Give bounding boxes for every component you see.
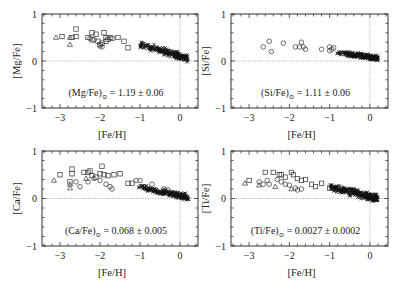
panel-si-fe: −3−2−10−101[Fe/H][Si/Fe](Si/Fe)⊙ = 1.11 … [200, 9, 388, 141]
y-tick-label: 0 [32, 193, 37, 204]
series-crosses [139, 41, 190, 64]
y-tick-label: 0 [32, 56, 37, 67]
x-axis-label: [Fe/H] [98, 267, 126, 278]
series-crosses [336, 50, 380, 62]
x-tick-label: 0 [367, 112, 372, 123]
y-axis-label: [Ti/Fe] [200, 184, 211, 213]
x-axis-label: [Fe/H] [288, 267, 316, 278]
x-axis-label: [Fe/H] [98, 129, 126, 140]
x-tick-label: −3 [55, 112, 66, 123]
series-circles [261, 39, 336, 54]
x-tick-label: 0 [178, 250, 183, 261]
x-tick-label: −2 [284, 112, 295, 123]
solar-ratio-annotation: (Ti/Fe)⊙ = 0.0027 ± 0.0002 [251, 225, 361, 238]
solar-ratio-annotation: (Si/Fe)⊙ = 1.11 ± 0.06 [261, 87, 350, 100]
x-tick-label: −1 [135, 250, 146, 261]
panel-ti-fe: −3−2−10−101[Fe/H][Ti/Fe](Ti/Fe)⊙ = 0.002… [200, 146, 388, 279]
y-tick-label: 0 [221, 193, 226, 204]
x-tick-label: −1 [135, 112, 146, 123]
y-tick-label: 1 [32, 146, 37, 157]
solar-ratio-annotation: (Mg/Fe)⊙ = 1.19 ± 0.06 [69, 87, 164, 100]
x-axis-label: [Fe/H] [288, 129, 316, 140]
solar-ratio-annotation: (Ca/Fe)⊙ = 0.068 ± 0.005 [65, 225, 167, 238]
y-tick-label: 1 [32, 9, 37, 20]
y-axis-label: [Ca/Fe] [11, 182, 22, 214]
panel-mg-fe: −3−2−10−101[Fe/H][Mg/Fe](Mg/Fe)⊙ = 1.19 … [11, 9, 198, 141]
x-tick-label: −2 [284, 250, 295, 261]
y-tick-label: 0 [221, 56, 226, 67]
y-tick-label: −1 [26, 103, 37, 114]
x-tick-label: 0 [178, 112, 183, 123]
x-tick-label: −3 [244, 112, 255, 123]
x-tick-label: −2 [95, 250, 106, 261]
series-triangles [52, 176, 89, 190]
x-tick-label: −1 [324, 112, 335, 123]
x-tick-label: −3 [55, 250, 66, 261]
x-tick-label: −3 [244, 250, 255, 261]
y-tick-label: 1 [221, 146, 226, 157]
y-tick-label: 1 [221, 9, 226, 20]
y-tick-label: −1 [26, 241, 37, 252]
y-tick-label: −1 [215, 241, 226, 252]
panel-ca-fe: −3−2−10−101[Fe/H][Ca/Fe](Ca/Fe)⊙ = 0.068… [11, 146, 198, 279]
x-tick-label: −2 [95, 112, 106, 123]
y-tick-label: −1 [215, 103, 226, 114]
x-tick-label: 0 [367, 250, 372, 261]
y-axis-label: [Mg/Fe] [11, 44, 22, 79]
figure-4-panel-abundance-plots: −3−2−10−101[Fe/H][Mg/Fe](Mg/Fe)⊙ = 1.19 … [0, 0, 400, 289]
y-axis-label: [Si/Fe] [200, 46, 211, 75]
x-tick-label: −1 [324, 250, 335, 261]
series-crosses [329, 183, 380, 203]
